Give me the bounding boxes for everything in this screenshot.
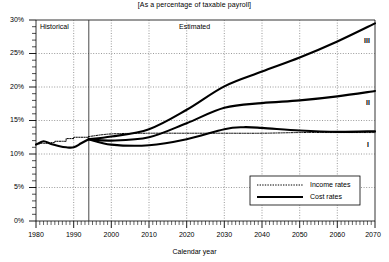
series-cost-rates-alternative-iii — [89, 23, 375, 139]
y-tick-label-5: 5% — [0, 183, 24, 190]
x-tick-label-2070: 2070 — [358, 231, 388, 238]
x-tick-label-1980: 1980 — [21, 231, 51, 238]
x-tick-label-2060: 2060 — [322, 231, 352, 238]
x-tick-label-2020: 2020 — [172, 231, 202, 238]
x-tick-label-2010: 2010 — [134, 231, 164, 238]
y-tick-label-20: 20% — [0, 83, 24, 90]
legend-label-income-rates: Income rates — [310, 181, 350, 188]
x-tick-label-1990: 1990 — [59, 231, 89, 238]
y-tick-label-30: 30% — [0, 16, 24, 23]
annotation-curve-iii: III — [364, 37, 370, 44]
series-cost-rates-alternative-i — [89, 127, 375, 146]
x-tick-label-2000: 2000 — [96, 231, 126, 238]
x-axis-minor-ticks — [40, 221, 371, 225]
annotation-historical: Historical — [40, 23, 69, 30]
annotation-estimated: Estimated — [179, 23, 210, 30]
y-tick-label-0: 0% — [0, 217, 24, 224]
x-tick-label-2050: 2050 — [285, 231, 315, 238]
chart-canvas — [0, 0, 389, 262]
y-tick-label-10: 10% — [0, 150, 24, 157]
data-curves — [36, 23, 375, 147]
annotation-curve-ii: II — [366, 99, 370, 106]
x-tick-label-2040: 2040 — [247, 231, 277, 238]
legend-label-cost-rates: Cost rates — [310, 193, 342, 200]
y-tick-label-25: 25% — [0, 49, 24, 56]
x-tick-label-2030: 2030 — [209, 231, 239, 238]
chart-figure: [As a percentage of taxable payroll] — [0, 0, 389, 262]
y-tick-label-15: 15% — [0, 116, 24, 123]
annotation-curve-i: I — [367, 141, 369, 148]
horizontal-gridlines — [36, 54, 375, 188]
y-axis-major-ticks — [29, 20, 36, 221]
x-axis-title: Calendar year — [0, 248, 389, 255]
